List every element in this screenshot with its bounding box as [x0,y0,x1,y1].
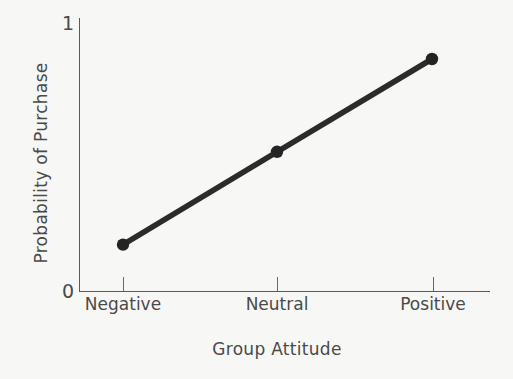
x-axis-tick-label-negative: Negative [85,296,161,313]
x-axis-title: Group Attitude [212,339,341,359]
data-point-positive [426,53,438,65]
y-axis-tick-label-min: 0 [62,282,74,301]
x-axis-tick-label-positive: Positive [400,296,466,313]
chart-figure: 1 0 Negative Neutral Positive Group Atti… [0,0,513,379]
chart-plot-area [0,0,513,379]
data-point-negative [117,238,129,250]
data-point-neutral [271,146,283,158]
x-axis-tick-label-neutral: Neutral [246,296,309,313]
y-axis-tick-label-max: 1 [62,14,74,33]
y-axis-title: Probability of Purchase [31,62,51,263]
